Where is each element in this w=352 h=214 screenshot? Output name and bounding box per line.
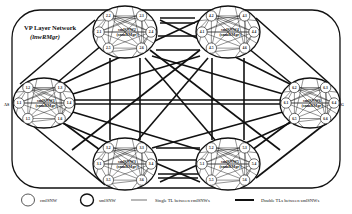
node-label: 4.4 bbox=[252, 30, 257, 34]
cmlsnw-node: 5.2 bbox=[206, 143, 216, 153]
node-label: 6.3 bbox=[323, 86, 328, 90]
node-label: 4.3 bbox=[242, 14, 247, 18]
node-label: 1.5 bbox=[26, 117, 31, 121]
side-label-left: AS bbox=[4, 102, 10, 107]
node-label: 2.3 bbox=[139, 14, 144, 18]
cluster-manager: (snmRMgr) bbox=[219, 32, 241, 37]
cmlsnw-node: 3.1 bbox=[94, 159, 104, 169]
node-label: 1.1 bbox=[17, 101, 22, 105]
cmlsnw-node: 5.4 bbox=[249, 159, 259, 169]
cmlsnw-node: 3.2 bbox=[103, 143, 113, 153]
node-label: 5.2 bbox=[209, 146, 214, 150]
legend-smlsnw-icon bbox=[81, 194, 94, 206]
cmlsnw-node: 2.4 bbox=[146, 27, 156, 37]
node-label: 4.2 bbox=[209, 14, 214, 18]
cmlsnw-node: 3.3 bbox=[136, 143, 146, 153]
node-label: 6.4 bbox=[332, 101, 337, 105]
legend-smlsnw-label: smlSNW bbox=[99, 198, 117, 203]
cluster-manager: (snmRMgr) bbox=[116, 164, 138, 169]
node-label: 5.3 bbox=[242, 146, 247, 150]
node-label: 1.2 bbox=[26, 86, 31, 90]
node-label: 3.6 bbox=[139, 178, 144, 182]
cmlsnw-node: 5.3 bbox=[239, 143, 249, 153]
cmlsnw-node: 2.2 bbox=[103, 11, 113, 21]
node-label: 1.6 bbox=[58, 117, 63, 121]
node-label: 3.5 bbox=[106, 178, 111, 182]
node-label: 5.6 bbox=[242, 178, 247, 182]
cmlsnw-node: 3.6 bbox=[136, 175, 146, 185]
cmlsnw-node: 2.1 bbox=[94, 27, 104, 37]
cmlsnw-node: 4.5 bbox=[206, 43, 216, 53]
cluster-manager: (snmRMgr) bbox=[219, 164, 241, 169]
cmlsnw-node: 3.5 bbox=[103, 175, 113, 185]
cmlsnw-node: 6.4 bbox=[329, 98, 339, 108]
cmlsnw-node: 1.6 bbox=[55, 113, 65, 123]
node-label: 5.5 bbox=[209, 178, 214, 182]
node-label: 6.1 bbox=[284, 101, 289, 105]
cluster-manager: (snmRMgr) bbox=[35, 103, 57, 108]
cmlsnw-node: 4.6 bbox=[239, 43, 249, 53]
vp-layer-network-diagram: VP Layer Network (lnwRMgr) bbox=[0, 0, 352, 214]
node-label: 2.5 bbox=[106, 46, 111, 50]
node-label: 4.1 bbox=[200, 30, 205, 34]
cmlsnw-node: 6.1 bbox=[281, 98, 291, 108]
clusters: smlSNW1(snmRMgr)1.11.21.31.41.51.6smlSNW… bbox=[13, 6, 340, 190]
cluster-smlsnw-1: smlSNW1(snmRMgr)1.11.21.31.41.51.6 bbox=[13, 78, 75, 128]
cmlsnw-node: 6.3 bbox=[320, 82, 330, 92]
network-subtitle: (lnwRMgr) bbox=[30, 33, 60, 41]
cmlsnw-node: 4.4 bbox=[249, 27, 259, 37]
cluster-smlsnw-6: smlSNW6(snmRMgr)6.16.26.36.46.56.6 bbox=[280, 78, 340, 128]
node-label: 5.1 bbox=[200, 162, 205, 166]
cmlsnw-node: 5.6 bbox=[239, 175, 249, 185]
cmlsnw-node: 6.2 bbox=[289, 82, 299, 92]
cluster-smlsnw-4: smlSNW4(snmRMgr)4.14.24.34.44.54.6 bbox=[196, 6, 260, 58]
legend-cmlsnw-label: cmlSNW bbox=[40, 198, 58, 203]
node-label: 6.6 bbox=[323, 117, 328, 121]
node-label: 5.4 bbox=[252, 162, 257, 166]
node-label: 1.4 bbox=[67, 101, 72, 105]
legend-cmlsnw-icon bbox=[22, 194, 35, 206]
cmlsnw-node: 1.1 bbox=[14, 98, 24, 108]
cmlsnw-node: 4.2 bbox=[206, 11, 216, 21]
node-label: 2.6 bbox=[139, 46, 144, 50]
node-label: 4.5 bbox=[209, 46, 214, 50]
cluster-smlsnw-3: smlSNW3(snmRMgr)3.13.23.33.43.53.6 bbox=[93, 138, 157, 190]
cluster-manager: (snmRMgr) bbox=[301, 103, 323, 108]
node-label: 4.6 bbox=[242, 46, 247, 50]
cmlsnw-node: 1.3 bbox=[55, 82, 65, 92]
node-label: 6.5 bbox=[292, 117, 297, 121]
cmlsnw-node: 2.3 bbox=[136, 11, 146, 21]
cmlsnw-node: 4.3 bbox=[239, 11, 249, 21]
legend-double-line-label: Double TLs between smlSNWs bbox=[261, 198, 319, 203]
node-label: 3.4 bbox=[149, 162, 154, 166]
node-label: 1.3 bbox=[58, 86, 63, 90]
network-title: VP Layer Network bbox=[24, 24, 77, 31]
legend-single-line-label: Single TL between cmlSNWs bbox=[155, 198, 210, 203]
node-label: 3.3 bbox=[139, 146, 144, 150]
legend: cmlSNW smlSNW Single TL between cmlSNWs … bbox=[22, 194, 320, 206]
node-label: 3.2 bbox=[106, 146, 111, 150]
cluster-smlsnw-2: smlSNW2(snmRMgr)2.12.22.32.42.52.6 bbox=[93, 6, 157, 58]
node-label: 2.2 bbox=[106, 14, 111, 18]
cmlsnw-node: 1.5 bbox=[23, 113, 33, 123]
cmlsnw-node: 5.5 bbox=[206, 175, 216, 185]
node-label: 6.2 bbox=[292, 86, 297, 90]
cmlsnw-node: 4.1 bbox=[197, 27, 207, 37]
cmlsnw-node: 1.2 bbox=[23, 82, 33, 92]
cmlsnw-node: 3.4 bbox=[146, 159, 156, 169]
cluster-manager: (snmRMgr) bbox=[116, 32, 138, 37]
node-label: 2.1 bbox=[97, 30, 102, 34]
cmlsnw-node: 5.1 bbox=[197, 159, 207, 169]
cmlsnw-node: 6.5 bbox=[289, 113, 299, 123]
node-label: 3.1 bbox=[97, 162, 102, 166]
cmlsnw-node: 2.5 bbox=[103, 43, 113, 53]
cmlsnw-node: 6.6 bbox=[320, 113, 330, 123]
cluster-smlsnw-5: smlSNW5(snmRMgr)5.15.25.35.45.55.6 bbox=[196, 138, 260, 190]
cmlsnw-node: 1.4 bbox=[64, 98, 74, 108]
cmlsnw-node: 2.6 bbox=[136, 43, 146, 53]
node-label: 2.4 bbox=[149, 30, 154, 34]
